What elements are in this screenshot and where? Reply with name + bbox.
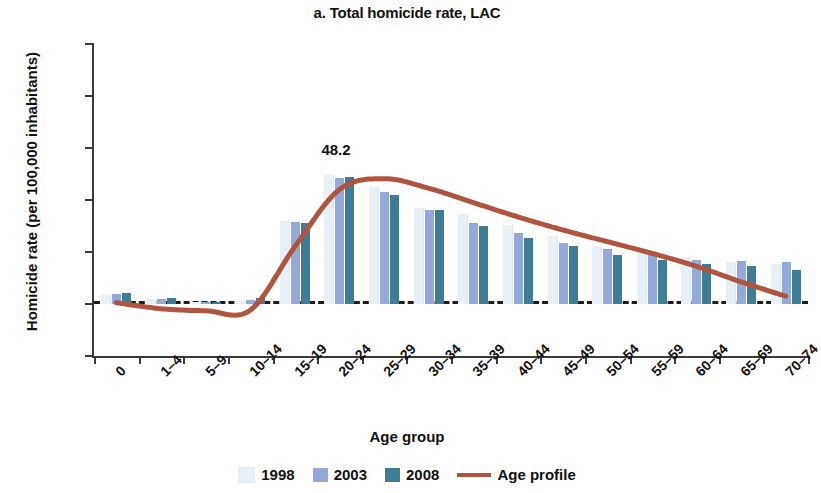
page-title: a. Total homicide rate, LAC bbox=[0, 4, 814, 21]
bar-2008 bbox=[524, 238, 533, 304]
bar-group bbox=[540, 44, 585, 304]
bar-2003 bbox=[603, 249, 612, 304]
bar-group bbox=[585, 44, 630, 304]
bar-group bbox=[273, 44, 318, 304]
bar-2008 bbox=[569, 246, 578, 305]
chart-legend: 199820032008Age profile bbox=[0, 466, 814, 483]
y-tick bbox=[85, 199, 94, 201]
legend-item-2003[interactable]: 2003 bbox=[313, 466, 367, 483]
bar-group bbox=[317, 44, 362, 304]
x-tick bbox=[94, 356, 96, 364]
bar-2008 bbox=[792, 270, 801, 304]
x-tick-label: 0 bbox=[112, 362, 129, 379]
x-tick bbox=[139, 356, 141, 364]
bar-2008 bbox=[301, 223, 310, 304]
y-axis-title: Homicide rate (per 100,000 inhabitants) bbox=[23, 22, 40, 362]
bar-2008 bbox=[613, 255, 622, 304]
bar-group bbox=[139, 44, 184, 304]
bar-1998 bbox=[369, 187, 379, 304]
x-axis-title: Age group bbox=[0, 428, 814, 445]
bar-1998 bbox=[726, 262, 736, 304]
bar-1998 bbox=[324, 175, 334, 304]
plot-area: 100806040200−20 bbox=[92, 44, 808, 356]
bar-group bbox=[183, 44, 228, 304]
bar-1998 bbox=[191, 302, 201, 304]
peak-value-annotation: 48.2 bbox=[321, 141, 350, 158]
bar-group bbox=[630, 44, 675, 304]
bar-2003 bbox=[246, 300, 255, 304]
legend-swatch-icon bbox=[385, 468, 400, 482]
y-tick bbox=[85, 251, 94, 253]
bar-1998 bbox=[592, 246, 602, 305]
bar-1998 bbox=[458, 214, 468, 304]
bar-2008 bbox=[122, 293, 131, 304]
bar-2003 bbox=[782, 262, 791, 304]
bar-2003 bbox=[692, 260, 701, 304]
legend-label: Age profile bbox=[497, 466, 575, 483]
bar-2003 bbox=[380, 192, 389, 304]
bar-1998 bbox=[637, 251, 647, 304]
bar-group bbox=[496, 44, 541, 304]
bar-2003 bbox=[202, 302, 211, 304]
bar-1998 bbox=[101, 295, 111, 304]
y-tick bbox=[85, 303, 94, 305]
bar-group bbox=[451, 44, 496, 304]
bar-2008 bbox=[390, 195, 399, 304]
legend-swatch-icon bbox=[313, 468, 328, 482]
bar-2003 bbox=[335, 178, 344, 304]
bar-2008 bbox=[212, 302, 221, 304]
bar-1998 bbox=[235, 301, 245, 304]
bar-group bbox=[674, 44, 719, 304]
bar-2008 bbox=[167, 298, 176, 304]
bar-group bbox=[228, 44, 273, 304]
bar-group bbox=[763, 44, 808, 304]
bar-2008 bbox=[479, 226, 488, 304]
bar-1998 bbox=[146, 299, 156, 304]
bar-group bbox=[94, 44, 139, 304]
bar-1998 bbox=[280, 221, 290, 304]
y-tick bbox=[85, 43, 94, 45]
bar-2003 bbox=[514, 233, 523, 305]
bar-2003 bbox=[648, 255, 657, 304]
bar-2003 bbox=[737, 261, 746, 304]
bar-2008 bbox=[256, 298, 265, 304]
legend-label: 2008 bbox=[406, 466, 439, 483]
bar-2008 bbox=[702, 264, 711, 304]
legend-swatch-icon bbox=[238, 467, 255, 483]
y-tick bbox=[85, 147, 94, 149]
bar-1998 bbox=[548, 236, 558, 304]
bar-group bbox=[719, 44, 764, 304]
bar-group bbox=[362, 44, 407, 304]
bar-2008 bbox=[658, 260, 667, 304]
legend-swatch-icon bbox=[457, 473, 491, 477]
bar-1998 bbox=[503, 225, 513, 304]
bar-2003 bbox=[469, 223, 478, 304]
bar-1998 bbox=[771, 264, 781, 304]
bar-2008 bbox=[747, 266, 756, 304]
bar-1998 bbox=[414, 208, 424, 304]
bar-2008 bbox=[435, 210, 444, 304]
y-tick bbox=[85, 95, 94, 97]
bar-2008 bbox=[345, 177, 354, 304]
bar-1998 bbox=[681, 257, 691, 304]
legend-item-age-profile[interactable]: Age profile bbox=[457, 466, 575, 483]
bar-2003 bbox=[157, 299, 166, 304]
bar-groups bbox=[94, 44, 808, 356]
legend-item-1998[interactable]: 1998 bbox=[238, 466, 294, 483]
legend-item-2008[interactable]: 2008 bbox=[385, 466, 439, 483]
bar-2003 bbox=[112, 294, 121, 304]
bar-2003 bbox=[425, 210, 434, 304]
bar-2003 bbox=[291, 222, 300, 304]
bar-2003 bbox=[559, 243, 568, 304]
legend-label: 2003 bbox=[334, 466, 367, 483]
bar-group bbox=[406, 44, 451, 304]
legend-label: 1998 bbox=[261, 466, 294, 483]
